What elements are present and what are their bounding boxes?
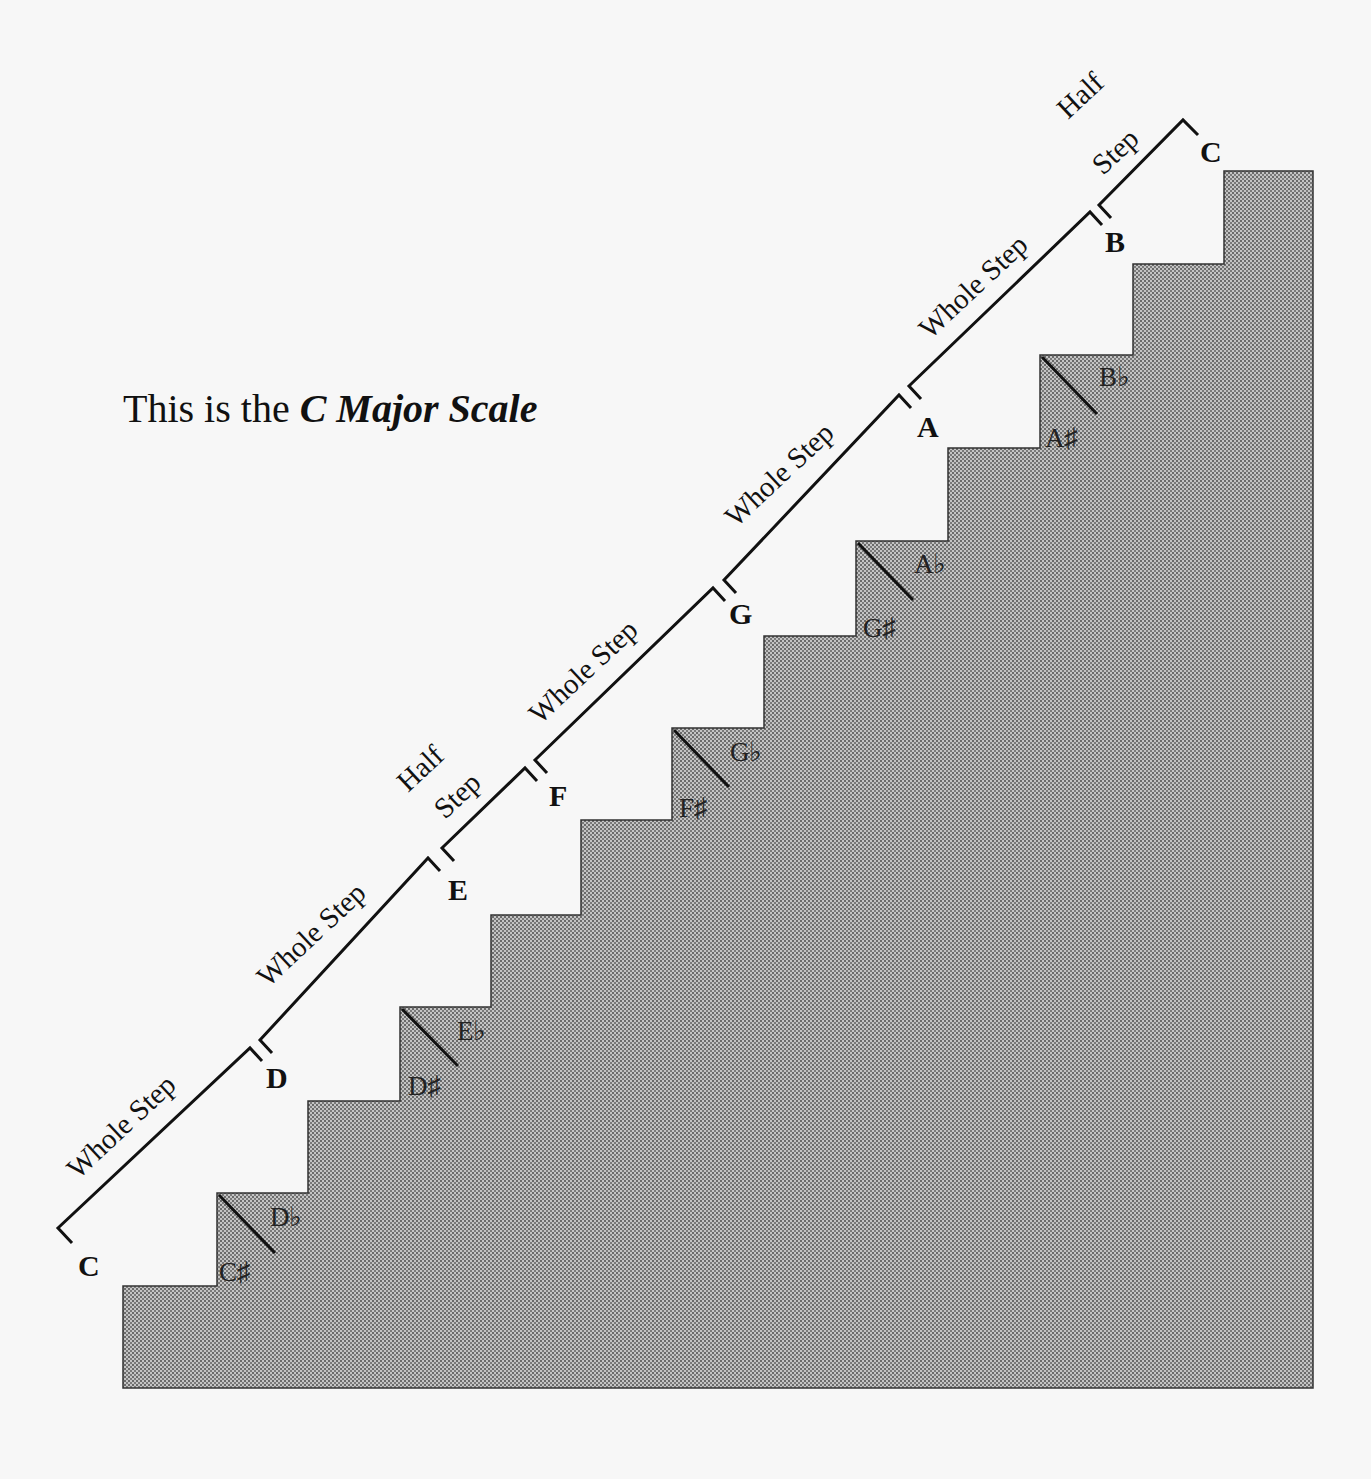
interval-label-a-b: Whole Step — [912, 228, 1033, 344]
interval-label-g-a: Whole Step — [718, 416, 839, 532]
note-g-sharp: G♯ — [863, 613, 896, 643]
note-d-sharp: D♯ — [408, 1071, 441, 1101]
note-e-flat: E♭ — [457, 1016, 487, 1046]
note-a-flat: A♭ — [914, 549, 947, 579]
note-c-high: C — [1200, 135, 1222, 168]
interval-label-b-c-line1: Half — [1050, 66, 1110, 125]
note-f-sharp: F♯ — [679, 793, 708, 823]
interval-label-d-e: Whole Step — [250, 876, 371, 992]
scale-staircase-diagram: Whole Step Whole Step Half Step Whole St… — [0, 0, 1371, 1479]
note-f: F — [549, 779, 567, 812]
note-g: G — [729, 597, 752, 630]
note-b: B — [1105, 225, 1125, 258]
note-e: E — [448, 873, 468, 906]
note-c-sharp: C♯ — [219, 1257, 251, 1287]
title-prefix: This is the — [123, 386, 300, 431]
title-emphasis: C Major Scale — [300, 386, 538, 431]
note-d: D — [266, 1061, 288, 1094]
note-c-low: C — [78, 1249, 100, 1282]
page-title: This is the C Major Scale — [123, 385, 537, 432]
note-b-flat: B♭ — [1099, 362, 1130, 392]
note-a-sharp: A♯ — [1045, 423, 1078, 453]
note-a: A — [917, 410, 939, 443]
note-g-flat: G♭ — [730, 737, 763, 767]
interval-label-b-c-line2: Step — [1085, 122, 1145, 181]
note-d-flat: D♭ — [270, 1202, 303, 1232]
